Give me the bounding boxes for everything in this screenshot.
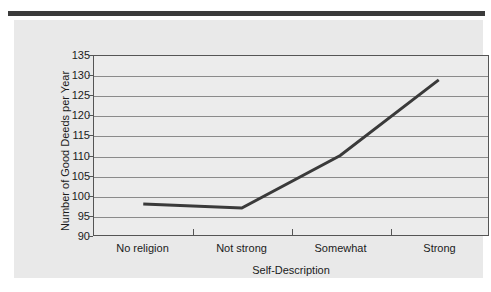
y-axis-tick-mark <box>88 236 93 237</box>
plot-area <box>93 55 489 236</box>
y-axis-tick-label: 115 <box>66 130 90 141</box>
y-axis-tick-label: 125 <box>66 90 90 101</box>
y-axis-tick-label: 110 <box>66 151 90 162</box>
y-axis-tick-label: 105 <box>66 171 90 182</box>
y-axis-tick-label: 95 <box>66 211 90 222</box>
series-polyline <box>143 80 439 208</box>
x-axis-category-label: Not strong <box>216 242 267 254</box>
y-axis-tick-label: 120 <box>66 110 90 121</box>
y-axis-tick-labels: 9095100105110115120125130135 <box>64 55 90 236</box>
x-axis-title: Self-Description <box>93 264 489 276</box>
chart-figure-panel: Number of Good Deeds per Year 9095100105… <box>14 20 483 278</box>
y-axis-tick-label: 90 <box>66 231 90 242</box>
y-axis-tick-label: 100 <box>66 191 90 202</box>
x-axis-category-label: No religion <box>116 242 169 254</box>
top-divider-rule <box>8 11 485 16</box>
y-axis-tick-label: 135 <box>66 50 90 61</box>
y-axis-tick-label: 130 <box>66 70 90 81</box>
x-axis-category-labels: No religionNot strongSomewhatStrong <box>93 242 489 258</box>
x-axis-category-label: Somewhat <box>315 242 367 254</box>
x-axis-category-label: Strong <box>423 242 455 254</box>
line-series <box>94 56 488 235</box>
